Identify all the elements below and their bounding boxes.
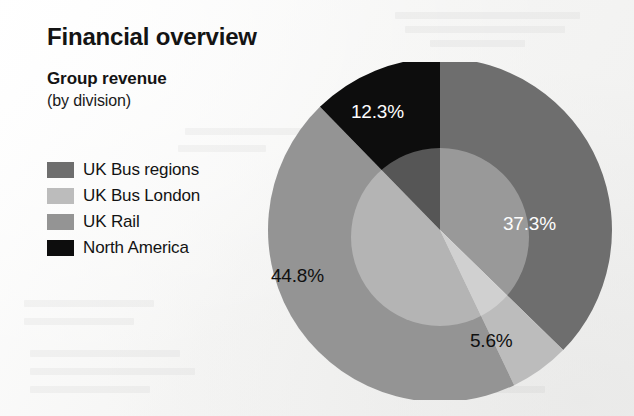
ghost-text-block <box>30 350 180 357</box>
chart-title: Group revenue <box>47 69 167 89</box>
financial-overview-page: Financial overview Group revenue (by div… <box>0 0 634 416</box>
ghost-text-block <box>405 26 565 33</box>
pie-chart: 37.3% 5.6% 44.8% 12.3% <box>266 62 614 400</box>
legend-label-uk-bus-london: UK Bus London <box>83 186 200 206</box>
ghost-text-block <box>30 368 195 375</box>
ghost-text-block <box>30 386 150 393</box>
slice-label-uk-rail: 44.8% <box>271 265 324 287</box>
legend-swatch-uk-bus-london <box>47 188 74 204</box>
ghost-text-block <box>430 40 525 47</box>
pie-slice-group <box>268 62 612 400</box>
page-title: Financial overview <box>47 23 257 51</box>
legend-item-uk-rail[interactable]: UK Rail <box>47 209 200 235</box>
slice-label-north-america: 12.3% <box>351 101 404 123</box>
legend-item-uk-bus-london[interactable]: UK Bus London <box>47 183 200 209</box>
ghost-text-block <box>178 145 266 152</box>
legend-label-uk-rail: UK Rail <box>83 212 140 232</box>
ghost-text-block <box>24 318 134 325</box>
legend-label-north-america: North America <box>83 238 189 258</box>
legend-item-uk-bus-regions[interactable]: UK Bus regions <box>47 157 200 183</box>
slice-label-uk-bus-regions: 37.3% <box>503 213 556 235</box>
ghost-text-block <box>24 300 154 307</box>
chart-legend: UK Bus regions UK Bus London UK Rail Nor… <box>47 157 200 261</box>
pie-chart-svg[interactable] <box>266 62 614 400</box>
legend-swatch-uk-bus-regions <box>47 162 74 178</box>
slice-label-uk-bus-london: 5.6% <box>470 330 513 352</box>
chart-subtitle: (by division) <box>47 92 131 110</box>
legend-swatch-north-america <box>47 240 74 256</box>
ghost-text-block <box>395 12 580 19</box>
legend-item-north-america[interactable]: North America <box>47 235 200 261</box>
legend-label-uk-bus-regions: UK Bus regions <box>83 160 199 180</box>
legend-swatch-uk-rail <box>47 214 74 230</box>
